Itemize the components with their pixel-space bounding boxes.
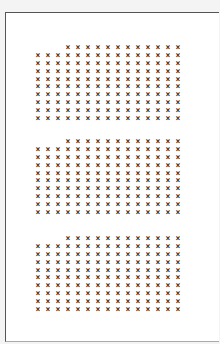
x-mark-icon: × — [123, 306, 133, 314]
x-mark-icon: × — [83, 115, 93, 123]
x-mark-icon: × — [163, 115, 173, 123]
x-mark-icon: × — [113, 306, 123, 314]
x-mark-icon: × — [173, 209, 183, 217]
x-mark-icon: × — [73, 306, 83, 314]
x-mark-icon: × — [133, 209, 143, 217]
x-mark-icon: × — [143, 115, 153, 123]
x-mark-icon: × — [33, 115, 43, 123]
x-mark-icon: × — [163, 306, 173, 314]
x-mark-icon: × — [133, 115, 143, 123]
x-mark-icon: × — [63, 209, 73, 217]
x-mark-icon: × — [53, 306, 63, 314]
x-mark-icon: × — [153, 115, 163, 123]
x-mark-icon: × — [33, 209, 43, 217]
x-mark-icon: × — [103, 209, 113, 217]
x-mark-icon: × — [153, 306, 163, 314]
x-mark-icon: × — [123, 115, 133, 123]
x-mark-icon: × — [163, 209, 173, 217]
x-mark-icon: × — [93, 306, 103, 314]
mark-row: ××××××××××××××× — [33, 115, 193, 123]
x-mark-icon: × — [73, 209, 83, 217]
x-mark-icon: × — [73, 115, 83, 123]
x-mark-icon: × — [63, 306, 73, 314]
x-mark-icon: × — [33, 306, 43, 314]
x-mark-icon: × — [53, 209, 63, 217]
x-mark-icon: × — [113, 209, 123, 217]
x-mark-icon: × — [43, 115, 53, 123]
x-mark-icon: × — [43, 209, 53, 217]
x-mark-icon: × — [103, 306, 113, 314]
x-mark-icon: × — [93, 209, 103, 217]
x-mark-icon: × — [53, 115, 63, 123]
x-mark-icon: × — [143, 306, 153, 314]
x-mark-icon: × — [83, 209, 93, 217]
mark-block-2: ××××××××××××××××××××××××××××××××××××××××… — [33, 138, 193, 217]
x-mark-icon: × — [93, 115, 103, 123]
x-mark-icon: × — [83, 306, 93, 314]
x-mark-icon: × — [143, 209, 153, 217]
x-mark-icon: × — [153, 209, 163, 217]
mark-block-3: ××××××××××××××××××××××××××××××××××××××××… — [33, 235, 193, 314]
x-mark-icon: × — [103, 115, 113, 123]
mark-block-1: ××××××××××××××××××××××××××××××××××××××××… — [33, 44, 193, 123]
mark-row: ××××××××××××××× — [33, 306, 193, 314]
x-mark-icon: × — [133, 306, 143, 314]
x-mark-icon: × — [113, 115, 123, 123]
x-mark-icon: × — [123, 209, 133, 217]
x-mark-icon: × — [173, 115, 183, 123]
x-mark-icon: × — [63, 115, 73, 123]
x-mark-icon: × — [173, 306, 183, 314]
x-mark-icon: × — [43, 306, 53, 314]
document-page: ××××××××××××××××××××××××××××××××××××××××… — [5, 12, 219, 342]
mark-row: ××××××××××××××× — [33, 209, 193, 217]
